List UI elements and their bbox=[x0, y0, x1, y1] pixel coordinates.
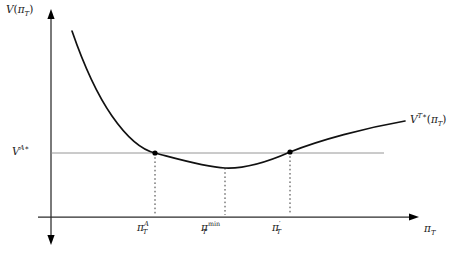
plot-canvas bbox=[0, 0, 471, 253]
x-axis bbox=[38, 213, 419, 220]
x-axis-label: πT bbox=[424, 223, 435, 237]
marker-pi-T-A bbox=[152, 150, 157, 155]
x-axis-arrow-right bbox=[409, 213, 419, 220]
y-axis-arrow-down bbox=[47, 235, 54, 245]
x-tick-label-pi-T-min: πminT bbox=[201, 221, 207, 235]
x-tick-label-pi-T-prime: π′T bbox=[272, 221, 281, 235]
value-function-curve bbox=[72, 31, 405, 168]
value-function-figure: V(πT) VA∗ VT∗(πT) πT πAT πminT π′T bbox=[0, 0, 471, 253]
y-axis-label: V(πT) bbox=[6, 4, 33, 18]
y-axis bbox=[47, 9, 54, 245]
curve-label: VT∗(πT) bbox=[410, 113, 446, 127]
x-tick-label-pi-T-A: πAT bbox=[137, 221, 147, 235]
marker-pi-T-prime bbox=[287, 149, 292, 154]
reference-level-label: VA∗ bbox=[12, 145, 29, 156]
y-axis-arrow-up bbox=[47, 9, 54, 19]
